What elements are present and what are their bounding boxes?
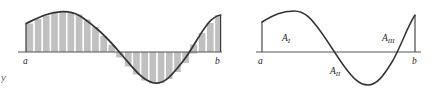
- riemann-bar: [83, 20, 90, 53]
- endpoint-label-a-right: a: [258, 56, 263, 66]
- riemann-bar: [75, 15, 82, 53]
- signed-area-panel: AI AII AIII a b: [222, 0, 445, 98]
- figure-root: y: [0, 0, 445, 98]
- riemann-bar: [42, 16, 49, 53]
- riemann-bar: [51, 13, 58, 52]
- area-label-a3: AIII: [381, 33, 395, 44]
- signed-area-svg: AI AII AIII a b: [222, 0, 445, 98]
- area-label-a1-subscript: I: [287, 37, 291, 44]
- endpoint-label-b-right: b: [412, 56, 417, 66]
- riemann-bar: [59, 12, 66, 52]
- riemann-bar: [157, 52, 164, 83]
- area-label-a1: AI: [281, 33, 291, 44]
- area-label-a2-subscript: II: [335, 70, 341, 77]
- area-label-a2: AII: [329, 66, 341, 77]
- riemann-bar: [26, 24, 33, 53]
- endpoint-label-b-left: b: [215, 56, 220, 66]
- riemann-bar: [215, 15, 221, 52]
- area-label-a3-subscript: III: [387, 37, 395, 44]
- riemann-bar: [149, 52, 156, 84]
- riemann-bar: [92, 27, 99, 52]
- riemann-bar: [206, 23, 213, 52]
- endpoint-label-a-left: a: [23, 56, 28, 66]
- riemann-sum-svg: a b: [0, 0, 222, 98]
- riemann-bar: [34, 19, 41, 52]
- riemann-sum-panel: a b: [0, 0, 222, 98]
- riemann-bar: [67, 12, 74, 52]
